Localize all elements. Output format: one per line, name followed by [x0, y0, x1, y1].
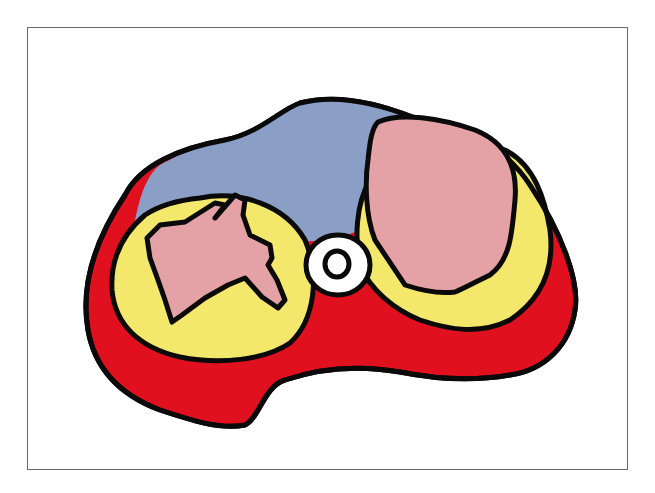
- center-ring-hole: [325, 251, 349, 277]
- cross-section-diagram: [0, 0, 655, 493]
